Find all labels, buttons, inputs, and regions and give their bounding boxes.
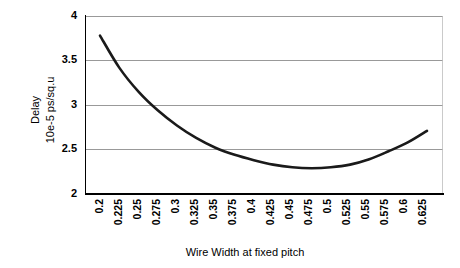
chart-container: 4 3.5 3 2.5 2 Delay 10e-5 ps/sq.u 0.2 0.… (0, 0, 460, 268)
xtick-label-3: 0.275 (150, 199, 162, 225)
ytick-label-3-5: 3.5 (62, 53, 77, 65)
xtick-label-5: 0.325 (188, 199, 200, 225)
x-axis-title: Wire Width at fixed pitch (186, 246, 305, 258)
xtick-label-12: 0.5 (321, 199, 333, 214)
xtick-label-15: 0.575 (378, 199, 390, 225)
chart-background (0, 0, 460, 268)
y-axis-title-line2: 10e-5 ps/sq.u (44, 77, 56, 144)
xtick-label-8: 0.4 (245, 199, 257, 214)
ytick-label-3: 3 (71, 98, 77, 110)
delay-vs-wire-width-line-chart: 4 3.5 3 2.5 2 Delay 10e-5 ps/sq.u 0.2 0.… (0, 0, 460, 268)
xtick-label-13: 0.525 (340, 199, 352, 225)
y-axis-title-line1: Delay (29, 95, 41, 124)
xtick-label-10: 0.45 (283, 199, 295, 220)
xtick-label-16: 0.6 (397, 199, 409, 214)
xtick-label-9: 0.425 (264, 199, 276, 225)
xtick-label-14: 0.55 (359, 199, 371, 220)
ytick-label-4: 4 (71, 9, 78, 21)
xtick-label-4: 0.3 (169, 199, 181, 214)
xtick-label-0: 0.2 (93, 199, 105, 214)
xtick-label-6: 0.35 (207, 199, 219, 220)
xtick-label-2: 0.25 (131, 199, 143, 220)
xtick-label-1: 0.225 (112, 199, 124, 225)
ytick-label-2: 2 (71, 187, 77, 199)
xtick-label-11: 0.475 (302, 199, 314, 225)
ytick-label-2-5: 2.5 (62, 142, 77, 154)
xtick-label-7: 0.375 (226, 199, 238, 225)
xtick-label-17: 0.625 (416, 199, 428, 225)
